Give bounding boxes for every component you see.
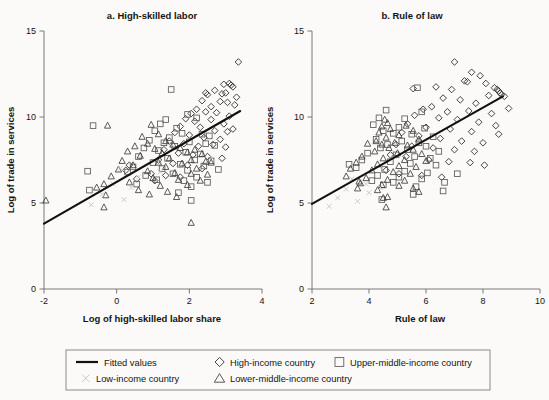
x-tick-label: 2 <box>187 296 192 306</box>
y-tick-label: 5 <box>31 198 36 208</box>
x-tick-label: 8 <box>480 296 485 306</box>
panel-b-xaxis-title: Rule of law <box>395 313 446 324</box>
y-tick-label: 10 <box>294 112 304 122</box>
panel-a-yaxis-title: Log of trade in services <box>5 107 16 214</box>
y-tick-label: 15 <box>26 26 36 36</box>
x-tick-label: 6 <box>423 296 428 306</box>
legend-label-low-income: Low-income country <box>96 374 180 384</box>
y-tick-label: 0 <box>31 284 36 294</box>
panel-a-xaxis-title: Log of high-skilled labor share <box>83 313 221 324</box>
y-tick-label: 0 <box>299 284 304 294</box>
x-tick-label: 4 <box>366 296 371 306</box>
x-tick-label: 4 <box>259 296 264 306</box>
panel-a-title: a. High-skilled labor <box>107 10 198 21</box>
panel-b-yaxis-title: Log of trade in services <box>264 107 275 214</box>
legend-label-high-income: High-income country <box>230 358 316 368</box>
y-tick-label: 15 <box>294 26 304 36</box>
x-tick-label: 2 <box>309 296 314 306</box>
x-tick-label: 0 <box>114 296 119 306</box>
panel-b-title: b. Rule of law <box>381 10 443 21</box>
legend-label-fitted-values: Fitted values <box>104 358 157 368</box>
x-tick-label: 10 <box>535 296 545 306</box>
x-tick-label: -2 <box>40 296 48 306</box>
legend-label-lower-middle-income: Lower-middle-income country <box>230 374 352 384</box>
figure-root: a. High-skilled labor Log of high-skille… <box>0 0 549 400</box>
y-tick-label: 5 <box>299 198 304 208</box>
y-tick-label: 10 <box>26 112 36 122</box>
legend-label-upper-middle-income: Upper-middle-income country <box>350 358 472 368</box>
